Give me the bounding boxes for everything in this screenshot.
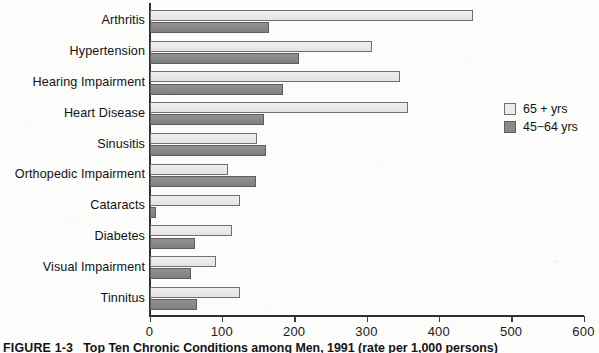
legend-item-65-plus: 65 + yrs — [504, 101, 599, 116]
bar-cataracts-series-1 — [150, 195, 240, 206]
category-label-cataracts: Cataracts — [0, 198, 145, 212]
bar-visual-impairment-series-2 — [150, 268, 191, 279]
category-label-orthopedic-impairment: Orthopedic Impairment — [0, 167, 145, 181]
bar-tinnitus-series-1 — [150, 287, 240, 298]
bar-diabetes-series-1 — [150, 225, 232, 236]
figure-caption-text: Top Ten Chronic Conditions among Men, 19… — [83, 341, 498, 353]
bar-orthopedic-impairment-series-1 — [150, 164, 228, 175]
legend-item-45-64: 45−64 yrs — [504, 119, 599, 134]
category-label-heart-disease: Heart Disease — [0, 106, 145, 120]
figure-page: ArthritisHypertensionHearing ImpairmentH… — [0, 0, 599, 353]
x-tick-label-0: 0 — [120, 324, 180, 339]
category-label-hypertension: Hypertension — [0, 44, 145, 58]
bar-arthritis-series-2 — [150, 22, 269, 33]
bar-tinnitus-series-2 — [150, 299, 197, 310]
bar-sinusitis-series-1 — [150, 133, 257, 144]
legend-swatch-45-64-icon — [504, 121, 516, 133]
figure-caption: FIGURE 1-3Top Ten Chronic Conditions amo… — [3, 341, 599, 353]
bar-diabetes-series-2 — [150, 238, 195, 249]
x-tick-label-300: 300 — [337, 324, 397, 339]
x-tick-100 — [222, 316, 223, 322]
x-tick-label-200: 200 — [264, 324, 324, 339]
x-tick-400 — [439, 316, 440, 322]
x-tick-0 — [150, 316, 151, 322]
plot-area — [150, 3, 583, 315]
category-label-visual-impairment: Visual Impairment — [0, 260, 145, 274]
legend-swatch-65-plus-icon — [504, 103, 516, 115]
x-tick-200 — [294, 316, 295, 322]
category-label-sinusitis: Sinusitis — [0, 137, 145, 151]
bar-sinusitis-series-2 — [150, 145, 266, 156]
x-tick-600 — [584, 316, 585, 322]
x-tick-label-600: 600 — [554, 324, 599, 339]
figure-number: FIGURE 1-3 — [3, 341, 73, 353]
bar-visual-impairment-series-1 — [150, 256, 216, 267]
x-tick-label-100: 100 — [192, 324, 252, 339]
bar-hearing-impairment-series-1 — [150, 71, 400, 82]
chart-legend: 65 + yrs 45−64 yrs — [504, 101, 599, 137]
bar-heart-disease-series-1 — [150, 102, 408, 113]
category-axis-labels: ArthritisHypertensionHearing ImpairmentH… — [0, 0, 145, 353]
bar-cataracts-series-2 — [150, 207, 156, 218]
bar-hypertension-series-1 — [150, 41, 372, 52]
bar-hearing-impairment-series-2 — [150, 84, 283, 95]
bar-arthritis-series-1 — [150, 10, 473, 21]
category-label-arthritis: Arthritis — [0, 13, 145, 27]
category-label-diabetes: Diabetes — [0, 229, 145, 243]
category-label-tinnitus: Tinnitus — [0, 291, 145, 305]
x-tick-label-500: 500 — [481, 324, 541, 339]
legend-label-65-plus: 65 + yrs — [523, 102, 567, 116]
category-label-hearing-impairment: Hearing Impairment — [0, 75, 145, 89]
bar-orthopedic-impairment-series-2 — [150, 176, 256, 187]
x-tick-500 — [511, 316, 512, 322]
legend-label-45-64: 45−64 yrs — [523, 120, 578, 134]
bar-hypertension-series-2 — [150, 53, 299, 64]
x-tick-300 — [367, 316, 368, 322]
bar-heart-disease-series-2 — [150, 114, 264, 125]
x-tick-label-400: 400 — [409, 324, 469, 339]
